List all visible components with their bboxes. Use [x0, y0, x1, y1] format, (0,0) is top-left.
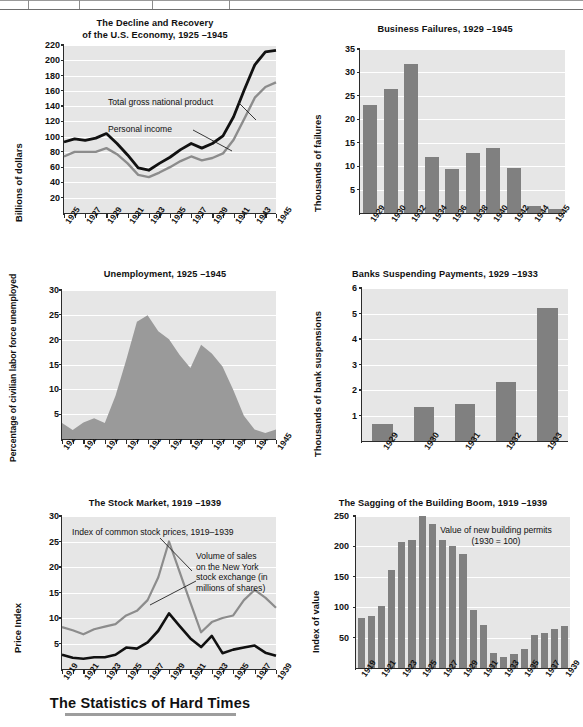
bar	[480, 625, 487, 668]
y-axis-tick-label: 10	[345, 161, 355, 171]
chart-bank-suspensions: Banks Suspending Payments, 1929 –1933 Th…	[300, 257, 583, 493]
figure-footer-rule	[65, 713, 236, 716]
chart-unemployment-area-svg	[0, 257, 300, 493]
y-axis-tick-label: 5	[350, 185, 355, 195]
y-axis-tick-label: 250	[334, 511, 349, 521]
bar	[378, 606, 385, 668]
figure-grid: The Decline and Recovery of the U.S. Eco…	[0, 12, 583, 727]
y-axis-tick-mark	[359, 364, 362, 365]
bar	[398, 542, 405, 668]
y-axis-tick-mark	[357, 166, 360, 167]
y-axis-tick-mark	[353, 576, 356, 577]
chart-gnp-annotation-gnp: Total gross national product	[108, 97, 213, 108]
bar	[363, 105, 377, 213]
bar	[384, 89, 398, 213]
area-fill	[62, 315, 276, 439]
chart-stock-market-plotarea: 51015202530 1919192119231925192719291931…	[0, 493, 300, 727]
annotation-permits-line2: (1930 = 100)	[416, 536, 576, 547]
figure-footer: The Statistics of Hard Times	[0, 695, 300, 716]
y-axis-tick-mark	[359, 415, 362, 416]
y-axis-tick-label: 30	[345, 67, 355, 77]
top-rule-divider-3	[152, 0, 153, 9]
chart-building-boom-annotation: Value of new building permits (1930 = 10…	[416, 525, 576, 546]
chart-stock-market-annotation-volume: Volume of sales on the New York stock ex…	[196, 551, 268, 593]
chart-gnp: The Decline and Recovery of the U.S. Eco…	[0, 12, 300, 257]
annotation-leader-line	[238, 102, 256, 120]
bar	[507, 168, 521, 213]
y-axis-tick-label: 1	[352, 411, 357, 421]
y-axis-tick-label: 100	[334, 602, 349, 612]
y-axis-tick-label: 3	[352, 360, 357, 370]
bar	[466, 153, 480, 213]
top-rule-upper	[0, 0, 583, 1]
page-top-rule	[0, 0, 583, 12]
bar	[449, 546, 456, 668]
chart-building-boom-y-axis	[355, 516, 356, 670]
bar	[388, 570, 395, 668]
chart-gnp-series-svg	[0, 12, 300, 257]
chart-business-failures: Business Failures, 1929 –1945 Thousands …	[300, 12, 583, 257]
chart-business-failures-plotarea: 5101520253035 19291930193219341936193819…	[300, 12, 583, 257]
chart-stock-market: The Stock Market, 1919 –1939 Price Index…	[0, 493, 300, 727]
top-rule-divider-4	[229, 0, 230, 9]
y-axis-tick-label: 2	[352, 385, 357, 395]
chart-building-boom: The Sagging of the Building Boom, 1919 –…	[300, 493, 583, 727]
y-axis-tick-mark	[359, 313, 362, 314]
y-axis-tick-mark	[357, 72, 360, 73]
y-axis-tick-mark	[357, 189, 360, 190]
bar	[404, 64, 418, 213]
y-axis-tick-label: 20	[345, 114, 355, 124]
y-axis-tick-mark	[359, 389, 362, 390]
annotation-volume-line2: on the New York	[196, 562, 268, 573]
y-axis-tick-mark	[353, 607, 356, 608]
y-axis-tick-mark	[353, 637, 356, 638]
chart-unemployment: Unemployment, 1925 –1945 Percentage of c…	[0, 257, 300, 493]
bar	[537, 308, 558, 441]
gridline	[362, 288, 568, 289]
gridline	[360, 49, 565, 50]
annotation-volume-line1: Volume of sales	[196, 551, 268, 562]
y-axis-tick-mark	[353, 515, 356, 516]
y-axis-tick-label: 200	[334, 541, 349, 551]
chart-gnp-plotarea: 20406080100120140160180200220 1925192719…	[0, 12, 300, 257]
y-axis-tick-label: 4	[352, 334, 357, 344]
y-axis-tick-label: 150	[334, 572, 349, 582]
gridline	[356, 546, 570, 547]
y-axis-tick-mark	[357, 48, 360, 49]
bar	[358, 618, 365, 668]
y-axis-tick-mark	[353, 546, 356, 547]
y-axis-tick-label: 25	[345, 91, 355, 101]
chart-bank-suspensions-y-axis	[361, 288, 362, 443]
top-rule-divider-1	[28, 0, 29, 9]
chart-bank-suspensions-plotarea: 123456 19291930193119321933	[300, 257, 583, 493]
chart-unemployment-plotarea: 51015202530 1925192719291931193319351937…	[0, 257, 300, 493]
annotation-permits-line1: Value of new building permits	[416, 525, 576, 536]
y-axis-tick-label: 5	[352, 309, 357, 319]
chart-gnp-annotation-income: Personal income	[108, 124, 172, 135]
y-axis-tick-label: 35	[345, 44, 355, 54]
y-axis-tick-mark	[359, 338, 362, 339]
bar	[439, 540, 446, 668]
gridline	[356, 516, 570, 517]
gridline	[360, 72, 565, 73]
top-rule-lower	[0, 9, 583, 10]
figure-footer-title: The Statistics of Hard Times	[0, 695, 300, 711]
y-axis-tick-label: 6	[352, 283, 357, 293]
top-rule-divider-2	[79, 0, 80, 9]
bar	[486, 148, 500, 213]
bar	[541, 633, 548, 668]
chart-building-boom-plotarea: 50100150200250 1919192119231925192719291…	[300, 493, 583, 727]
bar	[408, 540, 415, 668]
chart-stock-market-annotation-index: Index of common stock prices, 1919–1939	[72, 527, 233, 538]
y-axis-tick-mark	[357, 142, 360, 143]
annotation-volume-line4: millions of shares)	[196, 583, 268, 594]
y-axis-tick-mark	[359, 287, 362, 288]
y-axis-tick-mark	[357, 95, 360, 96]
annotation-volume-line3: stock exchange (in	[196, 572, 268, 583]
bar	[459, 554, 466, 668]
series-line	[62, 613, 276, 658]
y-axis-tick-label: 15	[345, 138, 355, 148]
y-axis-tick-label: 50	[339, 633, 349, 643]
y-axis-tick-mark	[357, 119, 360, 120]
bar	[561, 626, 568, 668]
